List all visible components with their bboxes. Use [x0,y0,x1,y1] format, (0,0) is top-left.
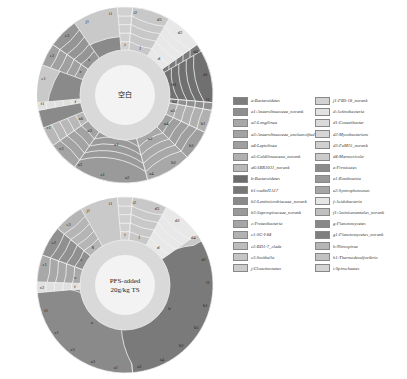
legend-label: e:Firmicutes [333,165,356,170]
outer-label: l1 [206,97,210,102]
legend-swatch [315,130,330,138]
legend-swatch [315,197,330,205]
legend-item: e1:Romboutsia [315,173,407,184]
center-label: 空白 [118,90,132,99]
legend-item: b1:vadinHA17 [233,185,315,196]
sunburst-segment [120,223,131,232]
legend-label: i:Spirochaetes [333,266,359,271]
sunburst-segment [117,7,132,16]
legend-label: c1:SC-I-84 [251,232,271,237]
outer-label: b3 [194,325,199,330]
legend-label: g:Planctomycetes [333,221,366,226]
sunburst-segment [117,197,132,206]
sunburst-segment [186,100,195,107]
outer-label: d2 [178,30,183,35]
legend-item: b2:Lentimicrobiaceae_norank [233,196,315,207]
center-label: PFS-added [110,277,141,285]
legend-swatch [315,253,330,261]
legend-label: d:Actinobacteria [333,109,364,114]
legend-label: e2:Syntrophomonas [333,188,370,193]
legend-label: j:Cloacimonetes [251,266,281,271]
legend-label: c3:Smithella [251,255,274,260]
outer-label: f1 [44,308,48,313]
legend-swatch [315,264,330,272]
outer-label: i1 [109,201,113,206]
legend-item: f1:Aminicenantales_norank [315,207,407,218]
legend-label: a1:Anaerolineaceae_norank [251,109,303,114]
outer-label: a1 [114,365,118,370]
legend-label: a:Bacteroidetes [251,98,280,103]
sunburst-segment [195,101,204,109]
legend-swatch [315,97,330,105]
sunburst-segment [46,282,55,292]
outer-label: f1 [41,101,45,106]
segment-label: a3 [87,128,92,133]
legend-label: a5:Caldilineaceae_norank [251,154,300,159]
sunburst-segment [118,206,132,215]
legend-swatch [233,153,248,161]
legend-item: d:Actinobacteria [315,106,407,117]
segment-label: b1 [171,82,177,87]
legend-label: b:Bacteroidetes [251,176,280,181]
legend-item: f:Acidobacteria [315,196,407,207]
legend-label: b1:vadinHA17 [251,188,278,193]
legend-swatch [233,264,248,272]
outer-label: e3 [67,222,72,227]
legend-swatch [233,119,248,127]
legend-item: a4:Leptolinea [233,140,315,151]
outer-label: a4 [149,171,154,176]
outer-label: i2 [134,10,138,15]
legend-item: c:Proteobacteria [233,218,315,229]
sunburst-segment [71,283,80,290]
legend-item: g1:Planctomycetes_norank [315,229,407,240]
legend-item: a3:Anaerolineaceae_uncluassified [233,129,315,140]
outer-label: e1 [42,76,46,81]
sunburst-segment [120,33,131,42]
legend-item: d2:Mycobacterium [315,129,407,140]
outer-label: c1 [46,125,50,130]
legend-swatch [233,231,248,239]
sunburst-svg-bottom: abcefgdiji1i2d3d2d4d1l1b1b3b2a4a2a1a3c3c… [20,190,220,379]
legend-label: d4:Marmoricola [333,154,364,159]
outer-label: e2 [50,53,54,58]
legend-swatch [233,186,248,194]
legend-swatch [233,97,248,105]
sunburst-segment [46,101,55,109]
legend-label: f:Acidobacteria [333,199,362,204]
legend-label: d1:Conexibacter [333,120,364,125]
sunburst-svg-top: aa1a2a3a4a5a6bb1b2cdefiji1i2d3d2d4d1l1b1… [20,0,220,190]
legend-label: f1:Aminicenantales_norank [333,210,384,215]
outer-label: d3 [157,17,162,22]
legend-swatch [233,141,248,149]
legend-item: a6:SBR1031_norank [233,162,315,173]
legend-swatch [315,164,330,172]
segment-label: j [138,234,140,239]
legend-label: e1:Romboutsia [333,176,361,181]
legend-item: a5:Caldilineaceae_norank [233,151,315,162]
legend-label: h:Nitrospirae [333,244,358,249]
legend-item: c3:Smithella [233,252,315,263]
sunburst-segment [178,100,187,106]
legend-swatch [315,175,330,183]
legend-item: a1:Anaerolineaceae_norank [233,106,315,117]
legend-item: e2:Syntrophomonas [315,185,407,196]
legend-item: d1:Conexibacter [315,117,407,128]
outer-label: l1 [206,280,210,285]
outer-label: a3 [78,162,83,167]
sunburst-segment [118,16,132,25]
outer-label: a3 [91,359,96,364]
outer-label: i1 [109,11,113,16]
legend-swatch [315,153,330,161]
sunburst-segment [63,100,72,106]
legend-item: a2:Longilinea [233,117,315,128]
segment-label: a6 [79,116,84,121]
outer-label: b1 [203,303,208,308]
outer-label: c2 [40,285,44,290]
legend-swatch [315,108,330,116]
outer-label: c3 [71,347,76,352]
legend-item: i:Spirochaetes [315,263,407,274]
outer-label: j1 [84,19,89,24]
outer-label: b1 [201,121,206,126]
legend-swatch [315,119,330,127]
legend-swatch [315,242,330,250]
